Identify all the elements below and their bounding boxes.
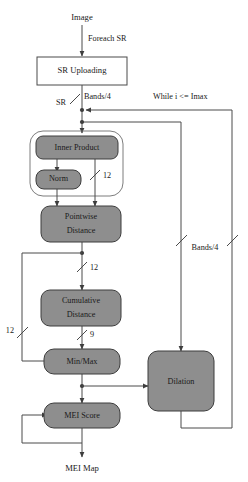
node-label-norm: Norm <box>49 174 69 183</box>
node-label-inner-product: Inner Product <box>55 143 101 152</box>
edge-label-12-left-bus: 12 <box>6 326 14 335</box>
junction-bus-to-dilation <box>80 120 84 124</box>
node-label-cumulative-distance-line1: Cumulative <box>62 296 101 305</box>
edge-label-sr: SR <box>56 98 67 107</box>
node-label-pointwise-distance-line1: Pointwise <box>65 212 98 221</box>
edge-label-while-i-imax: While i <= Imax <box>153 92 207 101</box>
edge-label-bands4-top: Bands/4 <box>84 92 111 101</box>
node-label-dilation: Dilation <box>168 377 195 386</box>
terminal-label-image: Image <box>71 12 93 22</box>
flowchart-canvas: SR Uploading Inner Product Norm Pointwis… <box>0 0 248 482</box>
edge-label-12-pointwise: 12 <box>90 263 98 272</box>
edge-label-12-inner-product: 12 <box>103 171 111 180</box>
node-label-sr-uploading: SR Uploading <box>58 65 108 75</box>
terminal-label-mei-map: MEI Map <box>65 463 99 473</box>
flowchart-diagram: SR Uploading Inner Product Norm Pointwis… <box>0 0 248 482</box>
node-label-min-max: Min/Max <box>67 357 98 366</box>
node-label-cumulative-distance-line2: Distance <box>67 310 96 319</box>
tick-bands4-sr <box>70 94 80 104</box>
edge-label-9-cumulative: 9 <box>90 330 94 339</box>
edge-label-foreach-sr: Foreach SR <box>88 34 127 43</box>
junction-bus-while-return <box>80 108 84 112</box>
node-label-mei-score: MEI Score <box>64 411 100 420</box>
node-label-pointwise-distance-line2: Distance <box>67 226 96 235</box>
edge-label-bands4-right: Bands/4 <box>192 243 219 252</box>
